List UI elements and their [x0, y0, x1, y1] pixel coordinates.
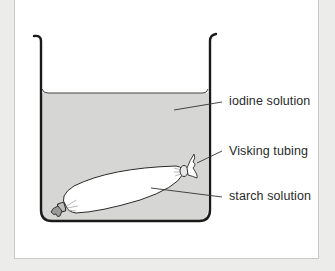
liquid-surface — [42, 89, 208, 93]
starch-solution-label: starch solution — [229, 189, 311, 203]
beaker-diagram — [0, 0, 335, 271]
visking-tubing-label: Visking tubing — [229, 144, 308, 158]
iodine-solution-label: iodine solution — [229, 94, 310, 108]
